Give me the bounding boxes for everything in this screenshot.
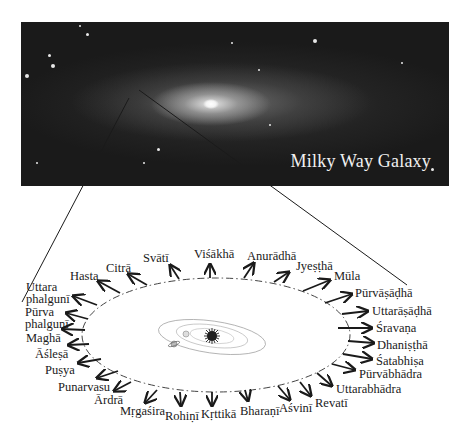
arrow-satabhisa: [343, 354, 372, 359]
arrow-citra: [128, 274, 147, 285]
label-purvasadha: Pūrvāṣāḍhā: [355, 287, 413, 299]
arrow-ardra: [114, 382, 131, 391]
label-punarvasu: Punarvasu: [58, 381, 110, 393]
arrow-mrgasira: [145, 390, 157, 403]
arrow-dhanistha: [348, 341, 374, 343]
label-satabhisa: Śatabhiṣa: [376, 355, 424, 367]
arrow-svati: [170, 265, 179, 279]
arrow-uttara-phalguni: [73, 296, 97, 305]
arrow-purvabhadra: [332, 364, 355, 370]
label-magha: Maghā: [26, 332, 61, 344]
label-uttara-phalguni-line2: phalgunī: [26, 293, 70, 305]
label-uttarasadha: Uttarāṣāḍhā: [372, 305, 432, 317]
label-uttarabhadra: Uttarabhādra: [336, 383, 401, 395]
label-svati: Svātī: [143, 252, 169, 264]
label-rohini: Rohiṇī: [165, 410, 199, 422]
label-dhanistha: Dhaniṣṭhā: [377, 339, 428, 351]
label-mula: Mūla: [334, 270, 360, 282]
arrow-jyestha: [274, 272, 289, 282]
label-sravana: Śravaṇa: [376, 322, 416, 334]
label-jyestha: Jyeṣṭhā: [296, 260, 333, 272]
label-hasta: Hasta: [70, 270, 98, 282]
arrow-uttarabhadra: [317, 373, 332, 386]
label-ardra: Ārdrā: [94, 394, 123, 406]
arrow-rohini: [180, 392, 181, 406]
label-purva-phalguni: Pūrva phalgunī: [25, 306, 69, 330]
arrow-uttarasadha: [342, 311, 368, 314]
arrow-pusya: [78, 359, 101, 363]
label-pusya: Puṣya: [45, 364, 75, 376]
label-revati: Revatī: [315, 397, 348, 409]
arrow-revati: [300, 382, 311, 396]
planet-icon: [183, 331, 189, 337]
arrow-purva-phalguni: [66, 313, 88, 319]
label-purva-phalguni-line2: phalgunī: [25, 318, 69, 330]
label-mrgasira: Mṛgaśira: [120, 405, 165, 417]
label-uttara-phalguni: Uttara phalgunī: [26, 281, 70, 305]
arrow-punarvasu: [97, 371, 118, 378]
label-purvabhadra: Pūrvābhādra: [359, 368, 422, 380]
arrow-mula: [303, 280, 330, 291]
arrow-purvasadha: [325, 294, 352, 303]
sun-icon: [204, 328, 220, 344]
arrow-aslesa: [68, 344, 89, 345]
arrow-bharani: [245, 390, 248, 401]
label-anuradha: Anurādhā: [247, 250, 296, 262]
label-visakha: Viśākhā: [194, 248, 234, 260]
label-krttika: Kṛttikā: [201, 408, 236, 420]
label-citra: Citrā: [106, 262, 131, 274]
arrow-asvini: [278, 386, 290, 400]
solar-system-illustration: [156, 314, 267, 361]
arrow-anuradha: [244, 263, 254, 278]
label-asvini: Aśvinī: [279, 402, 312, 414]
label-aslesa: Āśleṣā: [35, 348, 68, 360]
arrow-hasta: [98, 281, 120, 293]
label-bharani: Bharaṇī: [240, 405, 280, 417]
